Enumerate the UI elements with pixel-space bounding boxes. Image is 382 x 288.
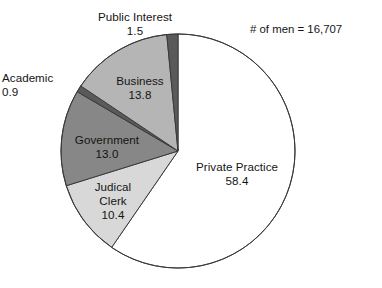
pie-chart: Public Interest 1.5 Academic 0.9 Busines… — [0, 0, 382, 288]
slice-label-judical-clerk-name-line2: Clerk — [72, 194, 154, 208]
slice-label-public-interest-name: Public Interest — [71, 10, 199, 24]
slice-label-business-name: Business — [88, 74, 192, 88]
slice-label-public-interest: Public Interest 1.5 — [71, 10, 199, 38]
slice-label-private-practice-name: Private Practice — [172, 160, 302, 174]
slice-label-public-interest-value: 1.5 — [71, 24, 199, 38]
slice-label-judical-clerk: Judical Clerk 10.4 — [72, 180, 154, 222]
slice-label-government-value: 13.0 — [48, 147, 166, 161]
slice-label-judical-clerk-value: 10.4 — [72, 208, 154, 222]
slice-label-government: Government 13.0 — [48, 133, 166, 161]
slice-label-government-name: Government — [48, 133, 166, 147]
slice-label-business: Business 13.8 — [88, 74, 192, 102]
slice-label-business-value: 13.8 — [88, 88, 192, 102]
slice-label-private-practice-value: 58.4 — [172, 174, 302, 188]
slice-label-private-practice: Private Practice 58.4 — [172, 160, 302, 188]
slice-label-judical-clerk-name-line1: Judical — [72, 180, 154, 194]
total-men-annotation: # of men = 16,707 — [250, 23, 378, 35]
